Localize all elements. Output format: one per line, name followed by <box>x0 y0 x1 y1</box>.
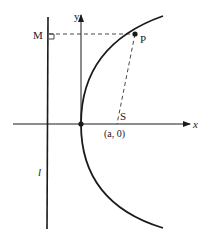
parabola-curve <box>81 16 163 228</box>
point-M-label: M <box>33 29 43 41</box>
point-S-label: S <box>120 110 126 122</box>
focus-coords-label: (a, 0) <box>104 128 125 140</box>
point-P-dot <box>132 31 137 36</box>
directrix-label: l <box>38 166 41 178</box>
x-axis-label: x <box>192 118 198 130</box>
directrix-line <box>47 17 48 229</box>
y-axis-label: y <box>74 10 80 22</box>
right-angle-marker <box>49 34 54 39</box>
point-P-label: P <box>140 33 146 45</box>
vertex-dot <box>78 121 83 126</box>
parabola-diagram: y x M P S (a, 0) l <box>0 0 207 243</box>
